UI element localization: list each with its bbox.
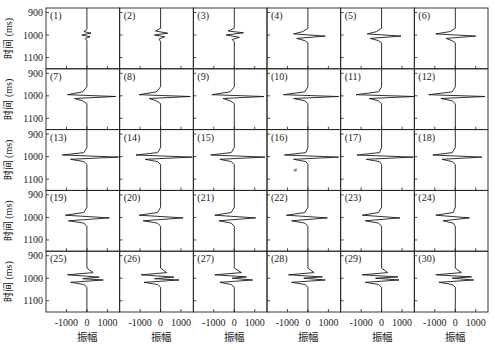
panel-label: (2) [124, 10, 136, 22]
panels-group: (1)(2)(3)(4)(5)(6)(7)(8)(9)(10)(11)(12)(… [46, 8, 488, 312]
y-axis-label: 时间 (ms) [2, 200, 15, 241]
x-tick-label: 0 [305, 317, 310, 328]
panel-label: (4) [271, 10, 283, 22]
wavelet-trace [68, 69, 116, 130]
x-axis-label: 振幅 [445, 331, 465, 343]
y-tick-label: 1100 [23, 52, 43, 63]
panel-label: (8) [124, 71, 136, 83]
wavelet-trace [284, 130, 338, 191]
panel-label: (1) [50, 10, 62, 22]
wavelet-trace [226, 8, 243, 69]
x-tick-label: 1000 [466, 317, 486, 328]
y-tick-label: 1000 [23, 151, 43, 162]
y-tick-label: 1000 [23, 273, 43, 284]
panel-15: (15) [193, 130, 267, 191]
wavelet-trace [136, 130, 192, 191]
x-tick-label: -1000 [349, 317, 372, 328]
panel-25: (25) [46, 251, 120, 312]
x-tick-label: 1000 [392, 317, 412, 328]
x-tick-label: -1000 [128, 317, 151, 328]
y-tick-label: 1100 [23, 234, 43, 245]
panel-label: (11) [345, 71, 361, 83]
x-tick-label: -1000 [55, 317, 78, 328]
panel-label: (18) [418, 132, 435, 144]
x-tick-label: 0 [232, 317, 237, 328]
panel-23: (23) [341, 190, 415, 251]
panel-30: (30) [414, 251, 488, 312]
x-axis-label: 振幅 [298, 331, 318, 343]
y-axis-label: 时间 (ms) [2, 79, 15, 120]
panel-label: (14) [124, 132, 141, 144]
y-tick-label: 1000 [23, 30, 43, 41]
panel-28: (28) [267, 251, 341, 312]
panel-14: (14) [120, 130, 194, 191]
panel-label: (29) [345, 253, 362, 265]
wavelet-trace [62, 130, 118, 191]
x-tick-label: 1000 [171, 317, 191, 328]
wavelet-trace [367, 8, 401, 69]
x-tick-label: -1000 [276, 317, 299, 328]
x-axis-label: 振幅 [224, 331, 244, 343]
y-tick-label: 900 [28, 7, 43, 18]
x-axes-group: -100001000振幅-100001000振幅-100001000振幅-100… [55, 317, 486, 343]
panel-17: (17) [341, 130, 415, 191]
x-axis-label: 振幅 [372, 331, 392, 343]
seismic-wavelet-panel-grid: (1)(2)(3)(4)(5)(6)(7)(8)(9)(10)(11)(12)(… [0, 0, 495, 350]
x-tick-label: -1000 [423, 317, 446, 328]
y-tick-label: 900 [28, 129, 43, 140]
panel-label: (28) [271, 253, 288, 265]
panel-label: (13) [50, 132, 67, 144]
wavelet-trace [436, 8, 476, 69]
panel-13: (13) [46, 130, 120, 191]
panel-label: (5) [345, 10, 357, 22]
panel-label: (19) [50, 192, 67, 204]
wavelet-trace [215, 190, 256, 251]
panel-10: (10) [267, 69, 341, 130]
y-tick-label: 1100 [23, 174, 43, 185]
panel-label: (22) [271, 192, 288, 204]
x-tick-label: 1000 [97, 317, 117, 328]
wavelet-trace [68, 251, 104, 312]
panel-label: (15) [197, 132, 214, 144]
panel-22: (22) [267, 190, 341, 251]
panel-29: (29) [341, 251, 415, 312]
y-tick-label: 900 [28, 68, 43, 79]
panel-6: (6) [414, 8, 488, 69]
y-tick-label: 1000 [23, 90, 43, 101]
wavelet-trace [436, 190, 470, 251]
panel-20: (20) [120, 190, 194, 251]
wavelet-trace [155, 8, 168, 69]
wavelet-trace [65, 190, 109, 251]
y-tick-label: 1000 [23, 212, 43, 223]
wavelet-trace [139, 69, 190, 130]
panel-label: (25) [50, 253, 67, 265]
x-axis-label: 振幅 [77, 331, 97, 343]
panel-19: (19) [46, 190, 120, 251]
wavelet-trace [286, 190, 327, 251]
y-tick-label: 900 [28, 189, 43, 200]
panel-label: (7) [50, 71, 62, 83]
panel-label: (20) [124, 192, 141, 204]
wavelet-trace [294, 8, 326, 69]
wavelet-trace [436, 251, 474, 312]
panel-label: (17) [345, 132, 362, 144]
wavelet-trace [433, 130, 482, 191]
y-axes-group: 90010001100时间 (ms)90010001100时间 (ms)9001… [2, 7, 43, 306]
panel-27: (27) [193, 251, 267, 312]
panel-label: (30) [418, 253, 435, 265]
x-tick-label: 0 [453, 317, 458, 328]
panel-label: (10) [271, 71, 288, 83]
panel-7: (7) [46, 69, 120, 130]
panel-label: (23) [345, 192, 362, 204]
wavelet-trace [356, 69, 414, 130]
wavelet-trace [283, 69, 338, 130]
x-tick-label: -1000 [202, 317, 225, 328]
panel-1: (1) [46, 8, 120, 69]
panel-21: (21) [193, 190, 267, 251]
panel-label: (24) [418, 192, 435, 204]
panel-label: (9) [197, 71, 209, 83]
y-axis-label: 时间 (ms) [2, 18, 15, 59]
x-tick-label: 0 [379, 317, 384, 328]
y-tick-label: 900 [28, 250, 43, 261]
wavelet-trace [211, 130, 265, 191]
